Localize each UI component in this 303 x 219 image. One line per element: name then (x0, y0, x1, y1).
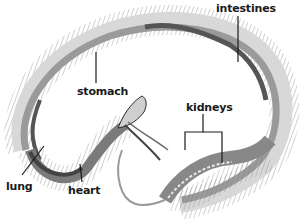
snake-anatomy-diagram: intestines stomach kidneys lung heart (0, 0, 303, 219)
label-stomach: stomach (77, 85, 128, 98)
label-heart: heart (68, 184, 100, 197)
label-intestines: intestines (216, 2, 276, 15)
snake-illustration (0, 0, 303, 219)
kidneys-leader-left (185, 114, 203, 150)
label-kidneys: kidneys (186, 101, 233, 114)
label-lung: lung (6, 180, 33, 193)
